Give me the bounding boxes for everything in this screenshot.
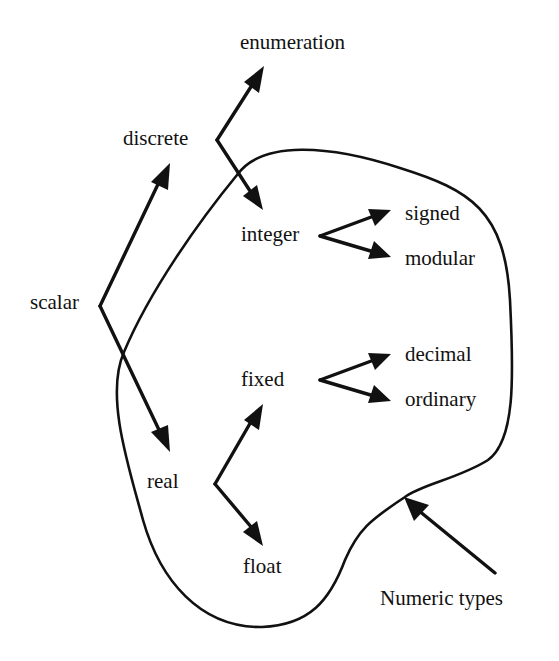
edge-discrete-enumeration bbox=[217, 82, 254, 140]
arrowhead-ordinary-icon bbox=[368, 385, 391, 403]
node-fixed: fixed bbox=[241, 369, 284, 390]
edge-fixed-ordinary bbox=[320, 380, 374, 396]
edge-discrete-integer bbox=[217, 140, 252, 194]
arrowhead-float-icon bbox=[243, 521, 263, 546]
edge-scalar-discrete bbox=[100, 180, 160, 306]
numeric-types-label: Numeric types bbox=[380, 588, 503, 609]
node-enumeration: enumeration bbox=[240, 32, 345, 53]
type-hierarchy-diagram: enumeration discrete integer signed modu… bbox=[0, 0, 559, 661]
node-ordinary: ordinary bbox=[405, 389, 476, 410]
edge-real-fixed bbox=[215, 420, 252, 484]
edge-fixed-decimal bbox=[320, 360, 374, 380]
node-discrete: discrete bbox=[123, 128, 188, 149]
node-integer: integer bbox=[241, 224, 299, 245]
node-real: real bbox=[147, 471, 178, 492]
arrowhead-integer-icon bbox=[243, 185, 263, 210]
edge-integer-modular bbox=[320, 236, 374, 252]
arrowhead-modular-icon bbox=[368, 241, 391, 259]
node-decimal: decimal bbox=[405, 344, 471, 365]
arrowhead-enumeration-icon bbox=[244, 66, 264, 93]
node-scalar: scalar bbox=[30, 292, 79, 313]
edge-scalar-real bbox=[100, 306, 160, 432]
arrowhead-discrete-icon bbox=[151, 163, 170, 190]
edge-integer-signed bbox=[320, 216, 374, 236]
arrowhead-real-icon bbox=[151, 425, 170, 452]
node-float: float bbox=[243, 556, 281, 577]
node-signed: signed bbox=[405, 203, 460, 224]
node-modular: modular bbox=[405, 248, 475, 269]
edge-numeric-types-pointer bbox=[418, 510, 495, 573]
edge-real-float bbox=[215, 484, 252, 528]
